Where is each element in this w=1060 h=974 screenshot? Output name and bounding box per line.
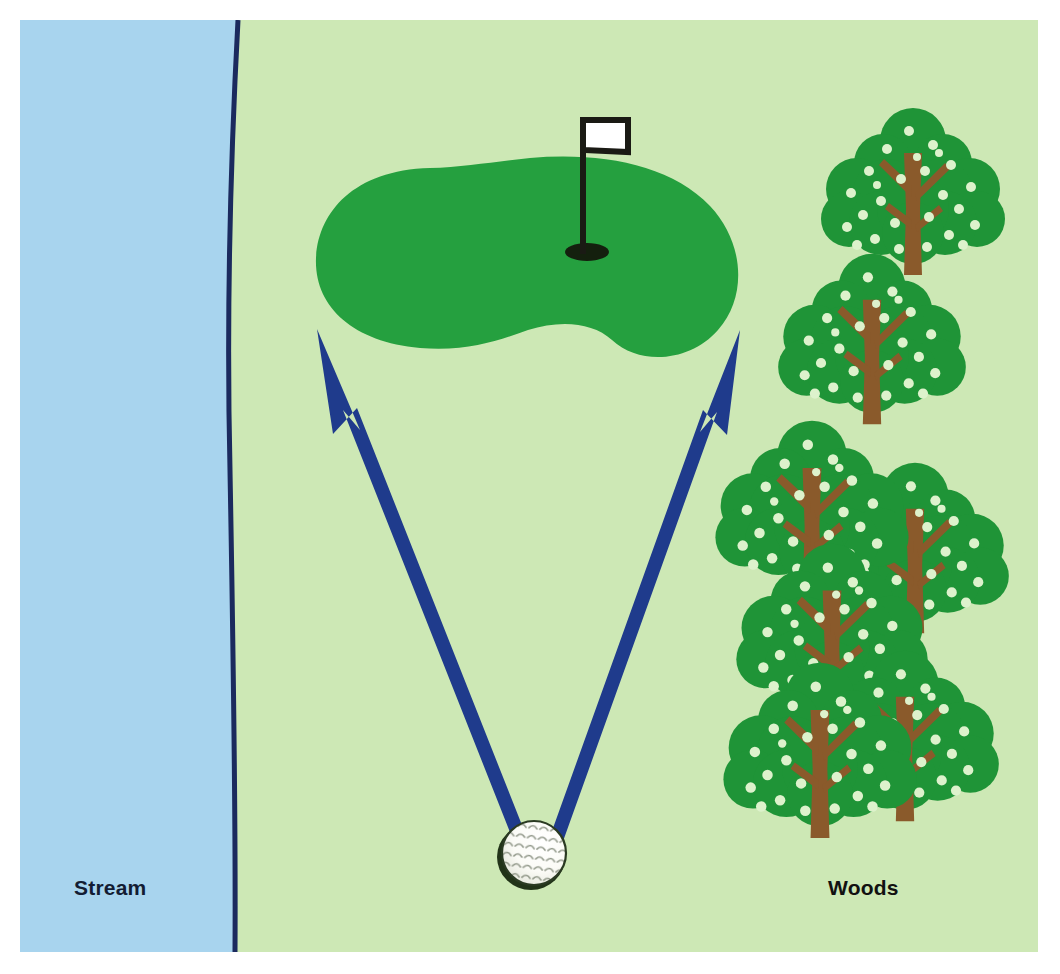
golf-hole-diagram: Stream Woods bbox=[0, 0, 1060, 974]
woods-label: Woods bbox=[828, 876, 899, 900]
hole-cup bbox=[565, 243, 609, 261]
stream-area bbox=[20, 20, 238, 952]
course-illustration bbox=[0, 0, 1060, 974]
flag-cloth bbox=[583, 120, 628, 152]
stream-label: Stream bbox=[74, 876, 146, 900]
putting-green-area bbox=[316, 157, 738, 358]
